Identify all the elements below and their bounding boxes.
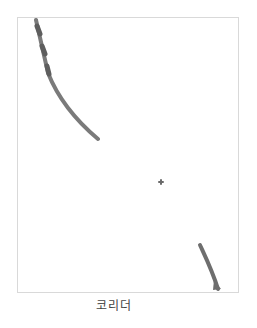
- diagram-frame: [17, 17, 239, 293]
- figure-caption: 코리더: [0, 296, 228, 313]
- diagram-canvas: [18, 18, 240, 294]
- center-dot: [159, 180, 163, 184]
- curved-band-top-left-texture: [37, 26, 49, 74]
- curved-band-top-left: [36, 20, 98, 139]
